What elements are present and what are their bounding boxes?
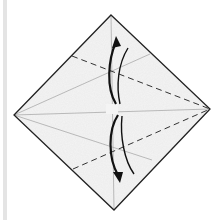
- center-gap: [106, 104, 118, 114]
- origami-diagram: [0, 0, 218, 220]
